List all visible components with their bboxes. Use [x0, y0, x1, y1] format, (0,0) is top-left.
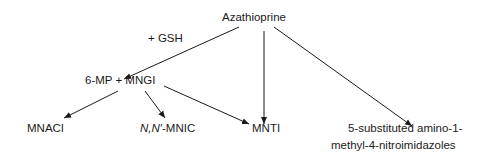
diagram-arrows	[0, 0, 492, 161]
node-mnti: MNTI	[252, 122, 280, 135]
reagent-gsh-label: + GSH	[148, 32, 183, 45]
node-mnic: N,N′-MNIC	[140, 122, 195, 135]
mnic-suffix: -MNIC	[162, 122, 195, 134]
node-nitroimidazoles-line1: 5-substituted amino-1-	[348, 122, 462, 135]
node-nitroimidazoles-line2: methyl-4-nitroimidazoles	[331, 139, 456, 152]
mnic-italic-prefix: N,N′	[140, 122, 162, 134]
node-mnaci: MNACI	[27, 122, 64, 135]
arrow-mngi-to-mnic	[145, 91, 165, 118]
arrow-6mp-to-mnaci	[64, 91, 118, 118]
node-azathioprine: Azathioprine	[222, 11, 286, 24]
arrow-mngi-to-mnti	[164, 86, 249, 124]
node-6mp-mngi: 6-MP + MNGI	[85, 74, 155, 87]
arrow-azathioprine-to-nitroimidazoles	[274, 27, 412, 126]
